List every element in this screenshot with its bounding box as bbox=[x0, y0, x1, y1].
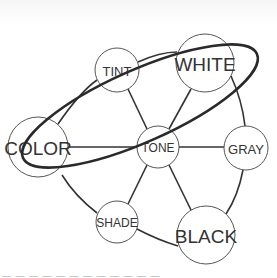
edge-tone-tint bbox=[128, 89, 147, 129]
node-gray: GRAY bbox=[224, 126, 268, 170]
node-tone: TONE bbox=[137, 126, 179, 168]
node-label-shade: SHADE bbox=[96, 216, 137, 230]
node-shade: SHADE bbox=[96, 201, 138, 243]
arc-gray-black bbox=[226, 170, 243, 214]
node-label-white: WHITE bbox=[174, 54, 235, 75]
node-label-gray: GRAY bbox=[228, 142, 264, 157]
footer-caption: — — — — — — — — — — — — bbox=[2, 268, 275, 278]
node-label-color: COLOR bbox=[4, 138, 72, 159]
edge-tone-shade bbox=[128, 165, 147, 204]
edge-tone-black bbox=[169, 165, 191, 210]
arc-black-shade bbox=[137, 229, 178, 246]
node-black: BLACK bbox=[175, 206, 238, 264]
arc-shade-color bbox=[62, 175, 97, 213]
diagram-canvas: TINT WHITE COLOR TONE GRAY SHADE BLACK — bbox=[0, 0, 277, 278]
node-label-black: BLACK bbox=[175, 226, 238, 247]
color-relationship-diagram: TINT WHITE COLOR TONE GRAY SHADE BLACK bbox=[0, 0, 277, 278]
node-white: WHITE bbox=[174, 34, 235, 92]
arc-color-tint bbox=[58, 80, 97, 124]
